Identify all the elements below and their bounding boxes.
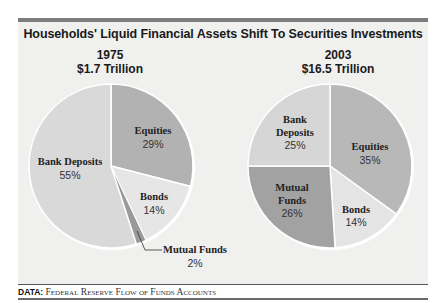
data-label: DATA: bbox=[18, 287, 43, 297]
pct-bonds-1975: 14% bbox=[143, 204, 164, 216]
slice-bank-deposits-2003 bbox=[248, 84, 330, 166]
pct-equities-2003: 35% bbox=[359, 154, 380, 166]
pct-bonds-2003: 14% bbox=[345, 216, 366, 228]
label-bank-deposits-1975: Bank Deposits bbox=[38, 156, 102, 167]
source-text: Federal Reserve Flow of Funds Accounts bbox=[46, 287, 217, 297]
label-mutual-funds-1975: Mutual Funds bbox=[163, 244, 227, 255]
label-equities-2003: Equities bbox=[352, 141, 389, 152]
pct-equities-1975: 29% bbox=[142, 138, 163, 150]
label-deposits-2003: Deposits bbox=[276, 127, 314, 138]
pct-bank-deposits-1975: 55% bbox=[59, 169, 80, 181]
label-funds-2003: Funds bbox=[278, 195, 306, 206]
pie-1975: Equities 29% Bank Deposits 55% Bonds 14%… bbox=[29, 84, 227, 269]
label-mutual-2003: Mutual bbox=[275, 182, 308, 193]
label-bonds-2003: Bonds bbox=[342, 204, 370, 215]
pct-mutual-funds-2003: 26% bbox=[281, 207, 302, 219]
pie-charts: Equities 29% Bank Deposits 55% Bonds 14%… bbox=[0, 0, 441, 303]
label-equities-1975: Equities bbox=[135, 125, 172, 136]
footer-rule bbox=[18, 284, 428, 285]
pie-2003: Bank Deposits 25% Equities 35% Mutual Fu… bbox=[248, 84, 414, 250]
data-source: DATA: Federal Reserve Flow of Funds Acco… bbox=[18, 287, 216, 297]
label-bank-2003: Bank bbox=[283, 114, 307, 125]
bottom-rule bbox=[18, 298, 428, 300]
pct-mutual-funds-1975: 2% bbox=[187, 257, 202, 269]
label-bonds-1975: Bonds bbox=[140, 191, 168, 202]
pct-bank-deposits-2003: 25% bbox=[284, 139, 305, 151]
